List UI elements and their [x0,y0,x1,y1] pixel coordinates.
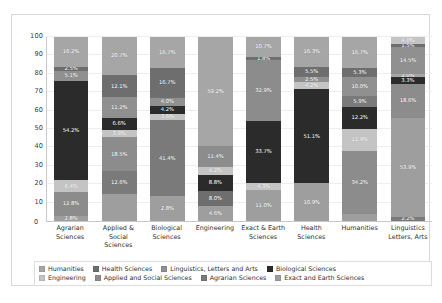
bar-segment[interactable]: 11.4% [198,146,233,167]
bar-segment[interactable]: 4.0% [391,37,426,44]
bar-segment[interactable]: 5.9% [342,96,377,107]
legend-item[interactable]: Linguistics, Letters and Arts [161,265,258,272]
bar-segment[interactable]: 2.8% [150,196,185,221]
bar-segment[interactable]: 11.0% [246,190,281,221]
bar-segment-label: 14.5% [400,58,417,63]
bar-segment[interactable] [102,194,137,220]
bar-segment[interactable]: 4.2% [150,106,185,114]
y-axis-tick-label: 50 [34,124,43,132]
stacked-bar[interactable]: 10.7%1.8%32.9%33.7%4.3%11.0% [246,37,281,221]
bar-segment-label: 12.1% [111,84,128,89]
bar-segment[interactable]: 12.6% [102,171,137,194]
bar-segment[interactable]: 4.0% [150,98,185,105]
bar-segment-label: 3.9% [113,131,126,136]
legend-item[interactable]: Humanities [39,265,84,272]
stacked-bar[interactable]: 16.7%5.3%10.0%5.9%12.2%11.9%34.2% [342,37,377,221]
stacked-bar[interactable]: 20.7%12.1%11.2%6.6%3.9%18.5%12.6% [102,37,137,221]
stacked-bar[interactable]: 16.3%5.5%2.5%4.2%51.1%10.9% [294,37,329,221]
bar-segment[interactable]: 10.9% [294,183,329,221]
legend-item[interactable]: Health Sciences [93,265,152,272]
bar-segment[interactable]: 6.6% [102,118,137,130]
bar-segment[interactable]: 6.4% [54,180,89,192]
legend-item[interactable]: Applied and Social Sciences [95,274,192,281]
bar-segment-label: 2.2% [401,217,414,221]
bar-segment-label: 32.9% [255,88,272,93]
bar-group: 4.0%1.5%14.5%2.0%3.3%18.6%53.9%2.2% [384,37,432,221]
bar-segment[interactable]: 20.7% [102,37,137,75]
x-axis-label: BiologicalSciences [143,224,191,250]
bar-segment-label: 20.7% [111,53,128,58]
bar-segment-label: 54.2% [63,128,80,133]
bar-segment-label: 6.6% [113,121,126,126]
chart-root: 102030405060708090100 16.2%2.5%5.1%54.2%… [0,0,442,303]
bar-segment[interactable]: 18.5% [102,137,137,171]
bar-group: 16.7%5.3%10.0%5.9%12.2%11.9%34.2% [336,37,384,221]
chart-legend: HumanitiesHealth SciencesLinguistics, Le… [34,261,432,286]
bar-group: 16.3%5.5%2.5%4.2%51.1%10.9% [288,37,336,221]
bar-segment[interactable]: 34.2% [342,151,377,214]
bar-segment[interactable]: 2.2% [391,217,426,221]
stacked-bar[interactable]: 4.0%1.5%14.5%2.0%3.3%18.6%53.9%2.2% [391,37,426,221]
legend-color-swatch [93,266,99,272]
bar-segment[interactable]: 16.7% [150,68,185,99]
legend-item[interactable]: Biological Sciences [267,265,336,272]
bar-segment-label: 33.7% [255,149,272,154]
bar-group: 59.2%11.4%4.2%8.8%8.0%4.6% [191,37,239,221]
bar-segment[interactable]: 2.8% [54,216,89,221]
bar-segment-label: 3.6% [161,114,174,119]
bar-segment[interactable]: 12.2% [342,107,377,129]
bar-segment[interactable]: 33.7% [246,121,281,183]
bar-segment-label: 59.2% [207,89,224,94]
x-axis-label: Exact & EarthSciences [239,224,287,250]
x-axis-label: Applied & SocialSciences [94,224,142,250]
legend-item[interactable]: Exact and Earth Sciences [275,274,364,281]
bar-segment[interactable]: 5.1% [54,71,89,80]
stacked-bar[interactable]: 16.7%16.7%4.0%4.2%3.6%41.4%2.8% [150,37,185,221]
bar-segment[interactable]: 12.8% [54,192,89,216]
stacked-bar[interactable]: 59.2%11.4%4.2%8.8%8.0%4.6% [198,37,233,221]
bar-segment[interactable]: 4.6% [198,206,233,221]
plot-area: 102030405060708090100 16.2%2.5%5.1%54.2%… [46,37,432,222]
bar-segment[interactable]: 51.1% [294,89,329,183]
bar-segment[interactable]: 10.7% [246,37,281,57]
legend-item[interactable]: Engineering [39,274,86,281]
bar-segment[interactable]: 16.7% [150,37,185,68]
bar-segment-label: 12.6% [111,180,128,185]
bar-segment[interactable]: 10.0% [342,77,377,95]
bar-segment-label: 12.8% [63,201,80,206]
bar-segment[interactable]: 3.6% [150,114,185,121]
bar-segment[interactable]: 11.9% [342,129,377,151]
legend-color-swatch [39,266,45,272]
bar-segment[interactable]: 5.3% [342,68,377,78]
bar-segment[interactable]: 54.2% [54,81,89,181]
bar-segment[interactable]: 16.2% [54,37,89,67]
bar-segment-label: 4.0% [161,99,174,104]
y-axis-tick-label: 80 [34,69,43,77]
bar-segment[interactable]: 16.7% [342,37,377,68]
bar-segment[interactable]: 59.2% [198,37,233,146]
bar-segment[interactable]: 12.1% [102,75,137,97]
bar-segment[interactable]: 5.5% [294,67,329,77]
bar-segment-label: 4.2% [305,83,318,88]
bar-segment[interactable]: 41.4% [150,120,185,196]
bar-segment[interactable]: 32.9% [246,60,281,121]
bar-segment[interactable] [342,214,377,221]
bar-segment[interactable]: 53.9% [391,118,426,217]
bar-segment[interactable]: 16.3% [294,37,329,67]
bar-segment[interactable]: 4.2% [294,82,329,90]
bar-segment[interactable]: 18.6% [391,84,426,118]
legend-item-label: Exact and Earth Sciences [284,274,364,281]
legend-item[interactable]: Agrarian Sciences [201,274,267,281]
legend-color-swatch [267,266,273,272]
bar-segment[interactable]: 8.0% [198,191,233,206]
bar-segment[interactable]: 3.9% [102,130,137,137]
bar-segment[interactable]: 11.2% [102,97,137,118]
bar-segment[interactable]: 14.5% [391,47,426,74]
stacked-bar[interactable]: 16.2%2.5%5.1%54.2%6.4%12.8%2.8% [54,37,89,221]
bar-segment[interactable]: 8.8% [198,175,233,191]
bar-segment[interactable]: 4.2% [198,167,233,175]
bar-segment[interactable]: 4.3% [246,183,281,191]
figure-frame: 102030405060708090100 16.2%2.5%5.1%54.2%… [11,14,430,286]
bar-segment-label: 8.8% [209,180,222,185]
y-axis-tick-label: 10 [34,198,43,206]
